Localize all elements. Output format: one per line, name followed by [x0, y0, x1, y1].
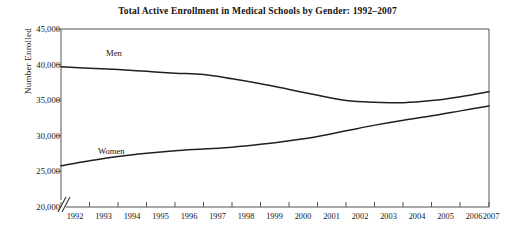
x-tick-label: 2007	[474, 212, 508, 221]
chart-figure: Total Active Enrollment in Medical Schoo…	[0, 0, 515, 243]
x-axis-tick-labels: 1992 1993 1994 1995 1996 1997 1998 1999 …	[0, 0, 515, 243]
